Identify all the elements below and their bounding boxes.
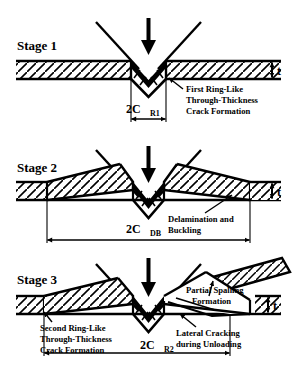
dimension-label-stage2-base: 2C xyxy=(126,222,141,236)
first-ring-crack-line-2: Through-Thickness xyxy=(186,95,259,105)
partial-spalling-line-2: Formation xyxy=(192,296,231,306)
partial-spalling-line-1: Partial Spalling xyxy=(186,285,244,295)
thickness-label-stage2: t xyxy=(277,185,281,199)
lateral-cracking-line-1: Lateral Cracking xyxy=(176,328,240,338)
dimension-label-stage3-base: 2C xyxy=(140,338,155,352)
stage-2-label: Stage 2 xyxy=(17,160,57,175)
second-ring-crack-line-3: Crack Formation xyxy=(40,345,104,355)
plate-right-stage1 xyxy=(166,61,281,79)
dimension-label-stage2-subscript: DB xyxy=(150,229,162,238)
first-ring-crack-line-3: Crack Formation xyxy=(186,106,250,116)
thickness-label-stage1: t xyxy=(277,64,281,78)
stage-3-label: Stage 3 xyxy=(17,272,58,287)
plate-left-stage1 xyxy=(16,61,131,79)
thickness-label-stage3: t xyxy=(273,299,277,313)
dimension-label-stage3-subscript: R2 xyxy=(164,345,174,354)
dimension-label-stage1-subscript: R1 xyxy=(150,109,160,118)
delamination-line-1: Delamination and xyxy=(168,214,234,224)
stage-1-label: Stage 1 xyxy=(17,38,57,53)
lateral-cracking-line-2: during Unloading xyxy=(176,339,242,349)
second-ring-crack-line-1: Second Ring-Like xyxy=(40,323,106,333)
second-ring-crack-line-2: Through-Thickness xyxy=(40,334,113,344)
indentation-damage-figure: t Stage 1 2C R1 First Ring-Like Through-… xyxy=(0,0,297,377)
first-ring-crack-line-1: First Ring-Like xyxy=(186,84,243,94)
dimension-label-stage1-base: 2C xyxy=(126,102,141,116)
delamination-line-2: Buckling xyxy=(168,225,202,235)
three-stage-damage-diagram: t Stage 1 2C R1 First Ring-Like Through-… xyxy=(0,0,297,377)
